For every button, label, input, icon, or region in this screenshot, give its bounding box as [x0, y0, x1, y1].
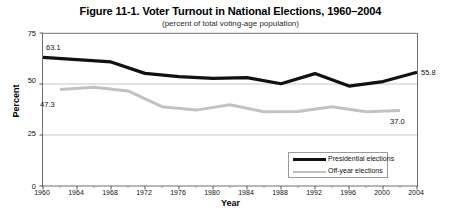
chart-figure: Figure 11-1. Voter Turnout in National E… — [0, 0, 461, 220]
data-label-offyear-end: 37.0 — [390, 117, 405, 126]
x-axis-ticks — [43, 186, 417, 190]
series-line-off-year-elections — [60, 87, 400, 111]
legend-label-off-year: Off-year elections — [328, 167, 383, 174]
chart-legend: Presidential elections Off-year election… — [288, 152, 388, 178]
legend-item-off-year: Off-year elections — [289, 165, 389, 178]
data-label-presidential-start: 63.1 — [46, 43, 61, 52]
data-label-offyear-start: 47.3 — [40, 100, 55, 109]
series-line-presidential-elections — [43, 57, 417, 86]
data-label-presidential-end: 55.8 — [421, 68, 436, 77]
legend-label-presidential: Presidential elections — [328, 155, 394, 162]
legend-swatch-off-year-line-icon — [293, 171, 326, 173]
legend-swatch-presidential-line-icon — [293, 158, 326, 161]
plot-area — [0, 0, 461, 220]
